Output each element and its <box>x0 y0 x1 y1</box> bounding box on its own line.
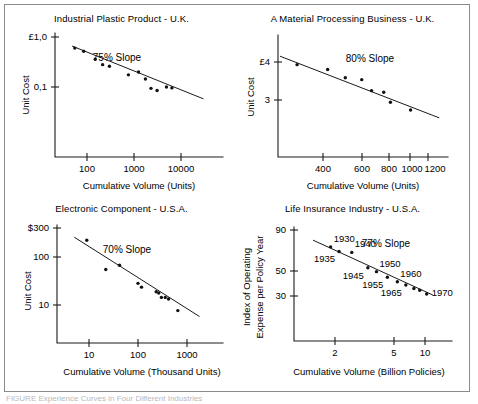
y-axis-title-line1: Index of Operating <box>241 248 252 326</box>
data-point <box>389 101 392 104</box>
y-tick-label: £4 <box>259 56 270 67</box>
point-year-label: 1965 <box>381 287 402 298</box>
point-year-label: 1935 <box>314 253 335 264</box>
x-tick-label: 100 <box>79 163 95 174</box>
slope-annotation: 70% Slope <box>103 244 152 255</box>
chart-svg: £1,0 0,1 100 1000 10000 Cumulative Volum… <box>5 5 238 199</box>
data-point <box>404 283 407 286</box>
chart-svg: £4 3 400 600 800 1000 1200 Cumulative Vo… <box>236 5 469 199</box>
chart-panel-industrial-plastic: Industrial Plastic Product - U.K. £1,0 0… <box>5 5 238 199</box>
data-point <box>73 46 76 49</box>
slope-annotation: 80% Slope <box>346 53 395 64</box>
y-tick-label: 30 <box>275 290 286 301</box>
chart-panel-material-processing: A Material Processing Business - U.K. £4… <box>236 5 469 199</box>
data-point <box>165 85 168 88</box>
data-point <box>396 280 399 283</box>
x-tick-label: 1000 <box>123 163 144 174</box>
trend-line <box>280 56 439 118</box>
point-year-label: 1940 <box>355 238 376 249</box>
x-axis-title: Cumulative Volume (Units) <box>307 180 419 191</box>
data-point <box>167 297 170 300</box>
figure-caption: FIGURE Experience Curves in Four Differe… <box>6 394 466 404</box>
y-tick-label: $300 <box>28 222 49 233</box>
figure-frame: Industrial Plastic Product - U.K. £1,0 0… <box>4 4 470 392</box>
x-tick-label: 1000 <box>401 163 422 174</box>
data-point <box>176 309 179 312</box>
data-point <box>108 65 111 68</box>
y-tick-label: 100 <box>33 251 49 262</box>
x-tick-label: 800 <box>381 163 397 174</box>
y-tick-label: 0,1 <box>34 81 47 92</box>
data-point <box>137 70 140 73</box>
x-tick-label: 100 <box>130 349 146 360</box>
data-point <box>418 289 421 292</box>
data-point <box>136 282 139 285</box>
y-tick-label: 90 <box>275 224 286 235</box>
data-point <box>344 76 347 79</box>
data-point <box>82 50 85 53</box>
data-point <box>375 270 378 273</box>
y-axis-title: Unit Cost <box>22 271 33 310</box>
x-tick-labels: 400 600 800 1000 1200 <box>315 163 446 174</box>
data-point <box>104 268 107 271</box>
data-point <box>164 296 167 299</box>
x-tick-labels: 2 5 10 <box>332 347 430 358</box>
data-point <box>140 285 143 288</box>
data-point <box>170 86 173 89</box>
data-point <box>350 251 353 254</box>
x-tick-label: 5 <box>391 347 396 358</box>
point-year-label: 1930 <box>334 233 355 244</box>
data-point <box>127 73 130 76</box>
point-year-label: 1970 <box>432 287 453 298</box>
data-point <box>386 276 389 279</box>
data-point <box>101 63 104 66</box>
x-tick-label: 400 <box>315 163 331 174</box>
data-points <box>295 63 412 112</box>
data-point <box>382 91 385 94</box>
data-point <box>94 57 97 60</box>
data-point <box>337 250 340 253</box>
data-point <box>366 266 369 269</box>
data-point <box>409 108 412 111</box>
data-point <box>85 239 88 242</box>
data-point <box>155 89 158 92</box>
chart-svg: 90 50 30 2 5 10 Cumulative Volume (Billi… <box>236 195 469 389</box>
x-axis-title: Cumulative Volume (Billion Policies) <box>293 366 445 377</box>
data-point <box>160 296 163 299</box>
x-tick-label: 10000 <box>168 163 194 174</box>
x-axis-title: Cumulative Volume (Thousand Units) <box>63 366 220 377</box>
y-tick-label: 10 <box>38 299 49 310</box>
y-tick-label: 3 <box>265 94 270 105</box>
chart-panel-electronic-component: Electronic Component - U.S.A. $300 100 1… <box>5 195 238 389</box>
data-point <box>118 264 121 267</box>
point-year-label: 1960 <box>400 268 421 279</box>
x-axis-title: Cumulative Volume (Units) <box>83 180 195 191</box>
x-tick-label: 1000 <box>176 349 197 360</box>
y-axis-title-line2: Expense per Policy Year <box>254 236 265 339</box>
x-tick-labels: 10 100 1000 <box>84 349 198 360</box>
data-point <box>370 89 373 92</box>
data-point <box>329 245 332 248</box>
data-point <box>326 68 329 71</box>
data-point <box>360 78 363 81</box>
y-axis-title: Unit Cost <box>245 77 256 116</box>
data-point <box>157 291 160 294</box>
y-tick-labels: £1,0 0,1 <box>29 31 48 92</box>
y-tick-labels: 90 50 30 <box>275 224 286 301</box>
y-axis-title: Unit Cost <box>20 75 31 114</box>
x-tick-label: 10 <box>84 349 95 360</box>
y-tick-label: £1,0 <box>29 31 48 42</box>
x-tick-label: 1200 <box>424 163 445 174</box>
point-year-label: 1950 <box>379 258 400 269</box>
data-point <box>425 292 428 295</box>
x-tick-label: 10 <box>420 347 431 358</box>
point-year-label: 1945 <box>343 270 364 281</box>
y-tick-labels: £4 3 <box>259 56 270 105</box>
data-point <box>412 287 415 290</box>
data-point <box>295 63 298 66</box>
data-point <box>144 77 147 80</box>
x-tick-label: 2 <box>332 347 337 358</box>
chart-panel-life-insurance: Life Insurance Industry - U.S.A. 90 50 3… <box>236 195 469 389</box>
chart-svg: $300 100 10 10 100 1000 Cumulative Volum… <box>5 195 238 389</box>
x-tick-label: 600 <box>354 163 370 174</box>
